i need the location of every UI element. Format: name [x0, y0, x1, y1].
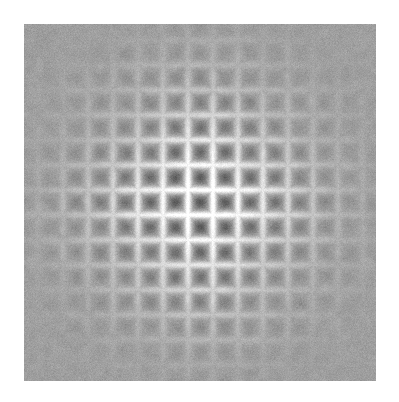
diffraction-pattern-canvas	[24, 24, 376, 381]
diffraction-pattern-panel	[24, 24, 376, 381]
page-root: 2D Interference / Diffraction Intensity …	[0, 0, 399, 402]
